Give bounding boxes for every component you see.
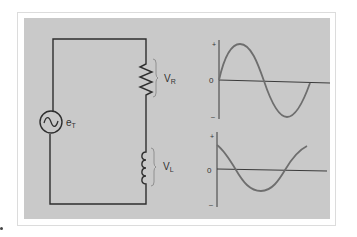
- source-label: eT: [66, 117, 77, 129]
- circuit-diagram: eT VR VL + 0 –: [0, 0, 357, 237]
- bottom-x-axis: [217, 169, 327, 171]
- bottom-cosine-wave: [217, 145, 307, 191]
- top-plus-label: +: [212, 41, 216, 48]
- top-x-axis: [219, 80, 330, 83]
- resistor-brace: [153, 59, 158, 97]
- wire-left-upper: [53, 39, 146, 111]
- figure: eT VR VL + 0 –: [0, 0, 357, 237]
- bottom-plus-label: +: [210, 133, 214, 140]
- inductor-coil: [142, 150, 146, 186]
- sine-wave-icon: [44, 118, 58, 127]
- resistor-zigzag: [140, 62, 152, 96]
- vr-label: VR: [164, 73, 176, 85]
- bottom-minus-label: –: [209, 201, 213, 208]
- graph-top: + 0 –: [209, 40, 330, 120]
- circuit-wires: [50, 39, 146, 204]
- graph-bottom: + 0 –: [207, 132, 327, 208]
- vl-label: VL: [163, 161, 174, 173]
- resistor: VR: [140, 59, 176, 97]
- inductor: VL: [142, 148, 174, 186]
- bottom-zero-label: 0: [207, 166, 212, 175]
- inductor-brace: [151, 148, 156, 186]
- top-minus-label: –: [211, 113, 215, 120]
- ac-source: eT: [40, 111, 77, 133]
- top-zero-label: 0: [209, 76, 214, 85]
- wire-lower: [50, 134, 146, 204]
